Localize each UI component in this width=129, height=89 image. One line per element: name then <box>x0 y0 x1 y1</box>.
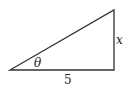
side-5-label: 5 <box>64 73 72 87</box>
angle-theta-label: θ <box>34 56 42 70</box>
triangle <box>10 10 114 70</box>
right-triangle-diagram: θ x 5 <box>0 0 129 89</box>
side-x-label: x <box>116 33 123 47</box>
